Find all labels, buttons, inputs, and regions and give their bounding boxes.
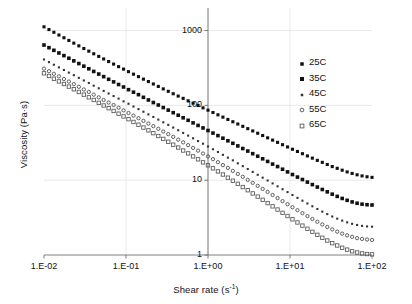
x-tick-label: 1.E-01 [96, 261, 156, 271]
legend-label: 35C [309, 72, 326, 83]
legend-marker-icon [296, 118, 308, 130]
x-tick-label: 1.E+02 [342, 261, 402, 271]
legend-marker-icon [296, 71, 308, 83]
x-axis-title: Shear rate (s-1) [0, 283, 412, 295]
legend-marker-icon [296, 102, 308, 114]
legend-item-65C[interactable]: 65C [296, 116, 366, 132]
x-tick-label: 1.E+01 [260, 261, 320, 271]
x-tick-label: 1.E-02 [14, 261, 74, 271]
y-tick-label: 1 [162, 249, 202, 259]
viscosity-shear-rate-chart: 1000100101 1.E-021.E-011.E+001.E+011.E+0… [0, 0, 412, 304]
plot-canvas [0, 0, 412, 304]
legend-label: 65C [309, 118, 326, 129]
y-axis-title: Viscosity (Pa·s) [18, 60, 29, 210]
legend-label: 25C [309, 56, 326, 67]
legend-marker-icon [296, 56, 308, 68]
x-axis-title-base: Shear rate (s [173, 284, 229, 295]
y-tick-label: 100 [162, 99, 202, 109]
legend-item-45C[interactable]: 45C [296, 85, 366, 101]
y-tick-label: 1000 [162, 25, 202, 35]
legend-marker-icon [296, 87, 308, 99]
legend-label: 55C [309, 103, 326, 114]
legend-item-55C[interactable]: 55C [296, 101, 366, 117]
x-axis-title-tail: ) [235, 284, 238, 295]
legend-item-25C[interactable]: 25C [296, 54, 366, 70]
legend-label: 45C [309, 87, 326, 98]
y-tick-label: 10 [162, 174, 202, 184]
axis-lines [44, 8, 372, 259]
legend: 25C35C45C55C65C [296, 54, 366, 132]
x-tick-label: 1.E+00 [178, 261, 238, 271]
legend-item-35C[interactable]: 35C [296, 70, 366, 86]
